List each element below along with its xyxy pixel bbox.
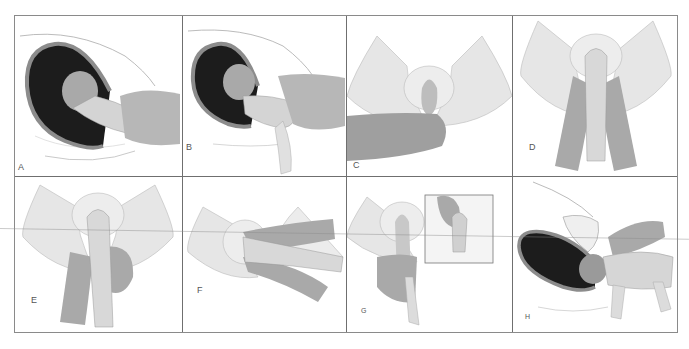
- fetus-buttocks: [421, 80, 437, 117]
- fetus-leg-1: [611, 285, 625, 319]
- panel-c-illustration: [347, 16, 512, 176]
- fetus-leg: [405, 277, 419, 325]
- fetus-head: [223, 64, 255, 100]
- hand: [120, 90, 180, 145]
- panel-g-illustration: [347, 177, 512, 334]
- panel-g: G: [347, 177, 512, 334]
- panel-label: G: [361, 307, 366, 314]
- fetus-legs: [585, 49, 607, 162]
- panel-label: C: [353, 160, 360, 170]
- panel-a-illustration: [15, 16, 182, 176]
- panel-b-illustration: [183, 16, 346, 176]
- panel-b: B: [183, 16, 346, 176]
- panel-h: H: [513, 177, 679, 334]
- panel-e-illustration: [15, 177, 182, 334]
- fetus-body: [87, 210, 113, 328]
- panel-f: F: [183, 177, 346, 334]
- panel-label: A: [18, 162, 24, 172]
- panel-a: A: [15, 16, 182, 176]
- hand: [347, 113, 446, 161]
- panel-label: B: [186, 142, 192, 152]
- panel-label: F: [197, 285, 203, 295]
- panel-label: E: [31, 295, 37, 305]
- panel-d: D: [513, 16, 679, 176]
- panel-label: H: [525, 313, 530, 320]
- panel-h-illustration: [513, 177, 679, 334]
- fetus-leg: [275, 121, 291, 174]
- panel-e: E: [15, 177, 182, 334]
- inset-fetus: [452, 212, 467, 252]
- panel-c: C: [347, 16, 512, 176]
- panel-f-illustration: [183, 177, 346, 334]
- breech-delivery-figure: A B C: [14, 15, 678, 333]
- panel-d-illustration: [513, 16, 679, 176]
- fetus-head: [579, 254, 607, 284]
- panel-label: D: [529, 142, 536, 152]
